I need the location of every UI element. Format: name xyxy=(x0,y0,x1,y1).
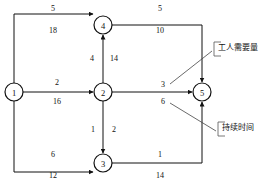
node-3[interactable]: 3 xyxy=(94,154,112,172)
edge-1-3-duration-label: 12 xyxy=(49,171,57,180)
edge-2-3-duration-label: 2 xyxy=(112,125,116,134)
edge-3-5-duration-label: 14 xyxy=(156,171,164,180)
edge-1-to-3 xyxy=(14,101,93,172)
edge-1-2-workers-label: 2 xyxy=(55,78,59,87)
edge-3-5-workers-label: 1 xyxy=(158,150,162,159)
edge-2-4-workers-label: 4 xyxy=(90,54,94,63)
node-5-label: 5 xyxy=(200,88,204,98)
node-2-label: 2 xyxy=(101,88,105,98)
callout-duration-leader-line xyxy=(170,103,216,131)
network-diagram: 1 2 3 4 5 5 18 2 16 6 12 4 14 1 2 3 6 xyxy=(0,0,275,182)
edge-4-5-duration-label: 10 xyxy=(156,26,164,35)
edge-1-3-workers-label: 6 xyxy=(51,150,55,159)
edge-1-4-workers-label: 5 xyxy=(51,4,55,13)
callout-worker-requirement-label: 工人需要量 xyxy=(218,44,258,52)
edge-1-2-duration-label: 16 xyxy=(53,97,61,106)
edge-2-3-workers-label: 1 xyxy=(91,125,95,134)
edge-1-4-duration-label: 18 xyxy=(49,26,57,35)
node-5[interactable]: 5 xyxy=(193,83,211,101)
edge-2-4-duration-label: 14 xyxy=(110,54,118,63)
edge-2-5-duration-label: 6 xyxy=(161,97,165,106)
callout-duration-label: 持续时间 xyxy=(222,124,254,132)
node-2[interactable]: 2 xyxy=(94,83,112,101)
node-3-label: 3 xyxy=(101,159,105,169)
callout-worker-leader-line xyxy=(170,51,212,84)
edge-3-to-5 xyxy=(112,102,202,163)
edge-1-to-4 xyxy=(14,14,93,84)
node-4[interactable]: 4 xyxy=(94,16,112,34)
network-graph-canvas: 1 2 3 4 5 5 18 2 16 6 12 4 14 1 2 3 6 xyxy=(0,0,275,182)
node-1-label: 1 xyxy=(12,88,16,98)
node-1[interactable]: 1 xyxy=(5,83,23,101)
edge-2-5-workers-label: 3 xyxy=(161,80,165,89)
edge-4-5-workers-label: 5 xyxy=(158,4,162,13)
